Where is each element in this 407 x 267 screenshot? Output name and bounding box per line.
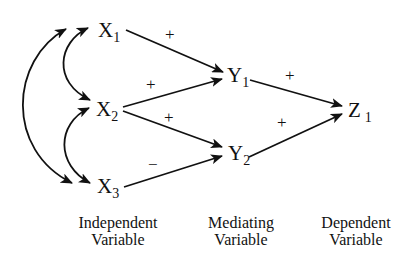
correlation-x1-x2 xyxy=(63,28,90,100)
arrow-y2-z1 xyxy=(249,114,342,157)
node-y2: Y2 xyxy=(228,141,250,168)
node-x3: X3 xyxy=(97,174,119,201)
caption-dependent-line2: Variable xyxy=(308,231,404,248)
sign-y1-z1: + xyxy=(285,66,295,85)
arrow-x3-y2 xyxy=(124,156,222,187)
node-x1: X1 xyxy=(98,18,120,45)
caption-independent-line1: Independent xyxy=(58,214,178,231)
caption-mediating-line1: Mediating xyxy=(193,214,289,231)
caption-dependent-variable: Dependent Variable xyxy=(308,214,404,248)
caption-mediating-variable: Mediating Variable xyxy=(193,214,289,248)
node-z1: Z1 xyxy=(348,98,372,125)
sign-x2-y1: + xyxy=(146,75,156,94)
sign-x3-y2: − xyxy=(148,155,158,174)
arrow-y1-z1 xyxy=(250,80,342,106)
sign-x1-y1: + xyxy=(165,25,175,44)
correlation-x2-x3 xyxy=(64,108,90,183)
node-y1: Y1 xyxy=(227,63,249,90)
sign-y2-z1: + xyxy=(277,113,287,132)
caption-independent-line2: Variable xyxy=(58,231,178,248)
caption-independent-variable: Independent Variable xyxy=(58,214,178,248)
node-x2: X2 xyxy=(96,97,118,124)
arrow-x2-y1 xyxy=(123,79,222,107)
sign-x2-y2: + xyxy=(164,108,174,127)
caption-mediating-line2: Variable xyxy=(193,231,289,248)
caption-dependent-line1: Dependent xyxy=(308,214,404,231)
